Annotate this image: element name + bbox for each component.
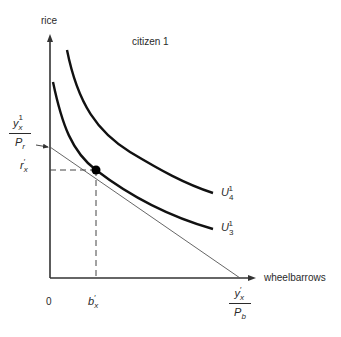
y-intercept-pointer-arrow xyxy=(36,145,48,147)
y-intercept-numerator: yx1 xyxy=(13,117,27,131)
tangent-point xyxy=(92,166,101,175)
curve-label-u4: U41 xyxy=(221,187,238,198)
indifference-curve-u3 xyxy=(53,82,213,229)
x-intercept-numerator: yx′ xyxy=(235,287,246,301)
y-intercept-label: yx1 Pr xyxy=(9,117,31,150)
tangent-y-label-sub: x xyxy=(24,165,28,174)
x-axis-label: wheelbarrows xyxy=(264,273,326,283)
curve-label-u3-sub: 3 xyxy=(229,228,233,237)
tangent-y-label: rx′ xyxy=(20,160,29,171)
y-axis-label: rice xyxy=(41,16,57,26)
x-intercept-num-sup: ′ xyxy=(240,285,242,294)
y-intercept-den-sub: r xyxy=(22,142,25,151)
curve-label-u4-sup: 1 xyxy=(228,184,232,193)
y-intercept-num-base: y xyxy=(13,117,19,129)
x-intercept-denominator: Pb xyxy=(234,306,246,320)
x-intercept-den-sub: b xyxy=(241,312,245,321)
tangent-x-label: bx′ xyxy=(88,296,100,307)
origin-label: 0 xyxy=(46,297,52,307)
tangent-x-label-sup: ′ xyxy=(94,293,96,302)
x-intercept-num-sub: x xyxy=(240,293,244,302)
tangent-y-label-sup: ′ xyxy=(24,157,26,166)
diagram-canvas xyxy=(0,0,341,337)
x-intercept-label: yx′ Pb xyxy=(229,287,251,320)
tangent-x-label-sub: x xyxy=(94,301,98,310)
x-intercept-fraction-bar xyxy=(229,303,251,304)
y-intercept-denominator: Pr xyxy=(15,136,25,150)
y-intercept-fraction-bar xyxy=(9,133,31,134)
diagram-title: citizen 1 xyxy=(132,37,169,47)
budget-line xyxy=(50,147,240,278)
y-intercept-num-sub: x xyxy=(19,123,23,132)
curve-label-u4-sub: 4 xyxy=(229,193,233,202)
y-intercept-num-sup: 1 xyxy=(19,113,23,122)
curve-label-u3-sup: 1 xyxy=(228,219,232,228)
indifference-curve-u4 xyxy=(67,50,213,193)
curve-label-u3: U31 xyxy=(221,222,238,233)
